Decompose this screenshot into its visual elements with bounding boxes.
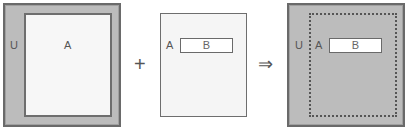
panel1-a-label: A <box>64 39 71 51</box>
panel2-set-a-box <box>160 13 247 117</box>
implies-operator: ⇒ <box>258 54 273 74</box>
panel3-set-b-box: B <box>329 38 382 53</box>
panel2-set-b-box: B <box>180 38 233 53</box>
panel3-a-label: A <box>315 39 322 51</box>
panel3-set-a-dashed-box <box>309 13 397 117</box>
plus-operator: + <box>134 54 146 74</box>
panel1-u-label: U <box>10 39 18 51</box>
panel3-u-label: U <box>295 39 303 51</box>
panel2-a-label: A <box>166 39 173 51</box>
panel1-set-a-box <box>24 13 112 117</box>
